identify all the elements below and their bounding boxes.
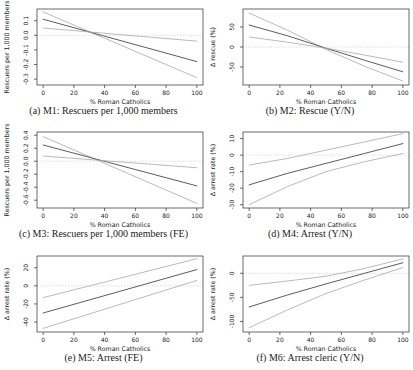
y-tick-label: 0.4 [22,130,29,140]
x-tick-label: 40 [100,336,108,343]
panel-d: -30-20-10010020406080100Δ arrest rate (%… [207,123,413,247]
y-tick-label: -0.1 [22,44,29,56]
x-tick-label: 80 [368,89,376,96]
panel-a: -0.3-0.2-0.10.00.1020406080100Rescuers p… [0,0,207,123]
y-tick-label: 20 [21,264,28,272]
y-tick-label: 0 [228,153,235,157]
panel-caption: (a) M1: Rescuers per 1,000 members [29,105,177,117]
y-tick-label: -0.3 [22,73,29,85]
x-tick-label: 60 [131,336,139,343]
plot-svg-c: -0.6-0.4-0.20.00.20.4020406080100Rescuer… [1,123,207,227]
panel-e: -40-20020020406080100Δ arrest rate (%)% … [0,247,207,370]
x-tick-label: 80 [162,336,170,343]
y-axis-label: Δ arrest rate (%) [209,268,216,320]
x-tick-label: 0 [41,212,45,219]
plot-svg-d: -30-20-10010020406080100Δ arrest rate (%… [207,123,413,227]
plot-box [243,256,409,332]
y-axis-label: Δ arrest rate (%) [3,268,10,320]
y-tick-label: -50 [228,292,235,302]
y-tick-label: -0.6 [22,194,29,206]
x-tick-label: 40 [307,336,315,343]
x-axis-label: % Roman Catholics [296,98,357,105]
plot-svg-f: -100-500020406080100Δ arrest rate (%)% R… [207,247,413,351]
panel-f: -100-500020406080100Δ arrest rate (%)% R… [207,247,413,370]
panel-c: -0.6-0.4-0.20.00.20.4020406080100Rescuer… [0,123,207,247]
y-tick-label: -20 [22,299,29,309]
y-tick-label: -50 [228,62,235,72]
series-estimate [43,19,197,61]
x-tick-label: 100 [397,89,409,96]
y-tick-label: -20 [228,183,235,193]
series-ci_steep [249,13,403,81]
x-axis-label: % Roman Catholics [296,221,357,228]
x-tick-label: 20 [276,212,284,219]
y-tick-label: -0.2 [22,59,29,71]
plot-box [37,256,203,332]
series-ci_steep [43,137,197,204]
x-tick-label: 40 [100,212,108,219]
series-ci_shallow [43,28,197,41]
x-tick-label: 20 [70,212,78,219]
y-tick-label: -0.2 [22,168,29,180]
x-tick-label: 80 [162,212,170,219]
x-tick-label: 60 [131,212,139,219]
y-tick-label: -0.4 [22,181,29,193]
y-tick-label: 0.1 [22,16,29,26]
panel-b: -50050020406080100Δ rescue (%)% Roman Ca… [207,0,413,123]
y-tick-label: -40 [22,317,29,327]
y-tick-label: 10 [228,135,235,143]
x-axis-label: % Roman Catholics [296,345,357,352]
plot-box [37,9,203,85]
x-tick-label: 0 [247,336,251,343]
x-tick-label: 60 [338,336,346,343]
x-tick-label: 0 [247,89,251,96]
x-tick-label: 80 [162,89,170,96]
x-tick-label: 0 [41,336,45,343]
y-axis-label: Δ arrest rate (%) [209,144,216,196]
x-axis-label: % Roman Catholics [89,98,150,105]
series-estimate [249,263,403,307]
series-ci_steep [43,12,197,78]
x-tick-label: 60 [338,89,346,96]
series-ci_shallow [43,156,197,168]
y-tick-label: 0.0 [22,30,29,40]
x-tick-label: 100 [397,212,409,219]
x-tick-label: 60 [131,89,139,96]
x-tick-label: 80 [368,336,376,343]
x-tick-label: 0 [247,212,251,219]
y-tick-label: 0.0 [22,156,29,166]
series-estimate [43,145,197,186]
x-tick-label: 100 [191,336,203,343]
y-tick-label: 0 [228,271,235,275]
x-tick-label: 40 [100,89,108,96]
x-tick-label: 40 [307,89,315,96]
y-axis-label: Δ rescue (%) [209,27,216,67]
plot-svg-b: -50050020406080100Δ rescue (%)% Roman Ca… [207,0,413,104]
plot-svg-e: -40-20020020406080100Δ arrest rate (%)% … [1,247,207,351]
y-tick-label: -100 [228,314,235,328]
y-tick-label: -10 [228,167,235,177]
x-tick-label: 20 [276,336,284,343]
x-tick-label: 20 [276,89,284,96]
x-tick-label: 80 [368,212,376,219]
y-tick-label: 0 [22,284,29,288]
y-tick-label: -30 [228,200,235,210]
panel-caption: (e) M5: Arrest (FE) [64,352,142,364]
figure-grid: -0.3-0.2-0.10.00.1020406080100Rescuers p… [0,0,413,370]
plot-box [243,132,409,208]
series-upper_ci [249,259,403,285]
plot-svg-a: -0.3-0.2-0.10.00.1020406080100Rescuers p… [1,0,207,104]
x-axis-label: % Roman Catholics [89,345,150,352]
x-tick-label: 40 [307,212,315,219]
y-axis-label: Rescuers per 1,000 members [3,124,11,217]
panel-caption: (b) M2: Rescue (Y/N) [266,105,355,117]
x-tick-label: 0 [41,89,45,96]
series-upper_ci [43,259,197,298]
series-lower_ci [43,280,197,328]
x-tick-label: 60 [338,212,346,219]
panel-caption: (d) M4: Arrest (Y/N) [268,228,352,240]
panel-caption: (f) M6: Arrest cleric (Y/N) [256,352,363,364]
y-tick-label: 0.2 [22,143,29,153]
x-tick-label: 100 [397,336,409,343]
x-tick-label: 20 [70,336,78,343]
